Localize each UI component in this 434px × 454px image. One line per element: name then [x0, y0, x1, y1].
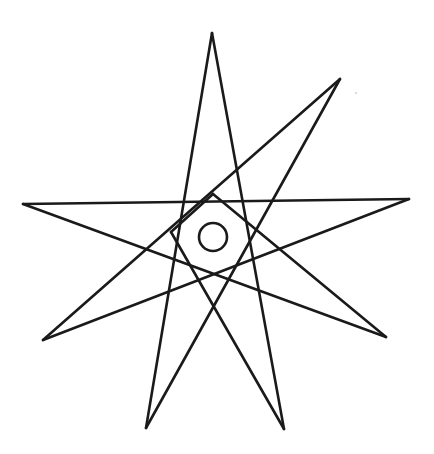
star-segment — [171, 194, 213, 232]
star-lines — [23, 33, 409, 429]
center-circle — [199, 223, 227, 251]
star-segment — [23, 199, 409, 204]
star-segment — [43, 79, 340, 340]
star-figure — [0, 0, 434, 454]
stray-dot — [355, 92, 356, 93]
star-segment — [212, 33, 284, 429]
star-segment — [23, 204, 386, 337]
star-segment — [43, 199, 409, 340]
